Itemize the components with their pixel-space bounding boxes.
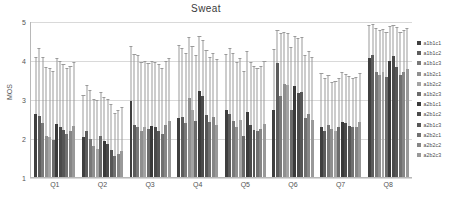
error-bar-cap — [89, 90, 92, 91]
error-bar — [195, 56, 196, 121]
error-bar-cap — [69, 66, 72, 67]
error-bar-cap — [187, 37, 190, 38]
chart-legend: a1b1c1a1b1c2a1b1c3a1b2c1a1b2c2a1b2c3a2b1… — [417, 38, 465, 160]
error-bar — [169, 59, 170, 121]
error-bar-cap — [286, 33, 289, 34]
error-bar — [73, 63, 74, 126]
legend-item-a2b1c2[interactable]: a2b1c2 — [417, 109, 465, 119]
error-bar-cap — [334, 81, 337, 82]
error-bar-cap — [225, 54, 228, 55]
error-bar-cap — [263, 61, 266, 62]
legend-swatch-icon — [417, 112, 421, 116]
error-bar-cap — [235, 62, 238, 63]
error-bar-cap — [161, 68, 164, 69]
legend-item-a2b2c2[interactable]: a2b2c2 — [417, 140, 465, 150]
x-axis-tick-label: Q3 — [126, 181, 174, 188]
error-bar-cap — [341, 72, 344, 73]
error-bar-cap — [330, 82, 333, 83]
error-bar-cap — [120, 107, 123, 108]
error-bar-cap — [307, 51, 310, 52]
legend-item-a1b2c3[interactable]: a1b2c3 — [417, 89, 465, 99]
legend-swatch-icon — [417, 153, 421, 157]
error-bar-cap — [228, 48, 231, 49]
bar[interactable] — [311, 120, 314, 177]
legend-item-a1b1c3[interactable]: a1b1c3 — [417, 58, 465, 68]
legend-item-a2b2c1[interactable]: a2b2c1 — [417, 130, 465, 140]
bar-slot — [358, 22, 361, 177]
error-bar — [264, 62, 265, 124]
error-bar — [226, 55, 227, 110]
legend-swatch-icon — [417, 72, 421, 76]
y-axis-tick-label: 4 — [22, 58, 26, 65]
error-bar — [301, 38, 302, 91]
error-bar — [162, 69, 163, 134]
error-bar — [46, 68, 47, 137]
error-bar-cap — [129, 46, 132, 47]
bar[interactable] — [72, 126, 75, 177]
legend-item-a1b1c1[interactable]: a1b1c1 — [417, 38, 465, 48]
error-bar-cap — [348, 76, 351, 77]
error-bar — [277, 31, 278, 63]
error-bar — [189, 38, 190, 97]
legend-swatch-icon — [417, 41, 421, 45]
error-bar — [372, 25, 373, 55]
bar-slot — [120, 22, 123, 177]
error-bar-cap — [320, 73, 323, 74]
bar[interactable] — [263, 124, 266, 177]
bar[interactable] — [215, 125, 218, 177]
error-bar — [42, 58, 43, 123]
error-bar-cap — [245, 51, 248, 52]
error-bar-cap — [279, 33, 282, 34]
bar[interactable] — [120, 151, 123, 177]
legend-item-a2b1c3[interactable]: a2b1c3 — [417, 120, 465, 130]
bar[interactable] — [168, 121, 171, 177]
error-bar-cap — [249, 62, 252, 63]
error-bar-cap — [180, 48, 183, 49]
error-bar-cap — [113, 113, 116, 114]
error-bar-cap — [48, 68, 51, 69]
error-bar-cap — [290, 47, 293, 48]
error-bar — [253, 67, 254, 130]
error-bar-cap — [303, 55, 306, 56]
legend-item-a1b2c2[interactable]: a1b2c2 — [417, 79, 465, 89]
error-bar — [118, 111, 119, 154]
error-bar — [209, 58, 210, 122]
error-bar-cap — [65, 68, 68, 69]
error-bar-cap — [385, 32, 388, 33]
error-bar-cap — [402, 30, 405, 31]
x-axis-tick-label: Q1 — [31, 181, 79, 188]
error-bar-cap — [177, 45, 180, 46]
error-bar — [273, 50, 274, 110]
error-bar — [155, 63, 156, 128]
error-bar — [312, 58, 313, 120]
error-bar-cap — [34, 57, 37, 58]
error-bar-cap — [41, 57, 44, 58]
legend-item-a1b2c1[interactable]: a1b2c1 — [417, 69, 465, 79]
error-bar — [151, 62, 152, 126]
error-bar — [331, 83, 332, 128]
bar[interactable] — [358, 122, 361, 177]
legend-item-label: a2b1c3 — [424, 122, 442, 128]
legend-item-a1b1c2[interactable]: a1b1c2 — [417, 48, 465, 58]
error-bar — [182, 49, 183, 117]
error-bar — [97, 101, 98, 149]
error-bar — [284, 33, 285, 84]
error-bar-cap — [276, 30, 279, 31]
bar-group-q6 — [269, 22, 317, 177]
bar[interactable] — [406, 69, 409, 177]
legend-item-a2b2c3[interactable]: a2b2c3 — [417, 150, 465, 160]
plot-area: 12345 — [30, 22, 412, 178]
bar-slot — [406, 22, 409, 177]
error-bar — [349, 77, 350, 126]
error-bar-cap — [55, 58, 58, 59]
bar-group-q3 — [126, 22, 174, 177]
error-bar-cap — [194, 55, 197, 56]
legend-item-a2b1c1[interactable]: a2b1c1 — [417, 99, 465, 109]
error-bar — [137, 56, 138, 127]
error-bar — [260, 67, 261, 129]
error-bar-cap — [58, 61, 61, 62]
error-bar — [407, 29, 408, 69]
error-bar — [400, 33, 401, 76]
error-bar-cap — [164, 61, 167, 62]
error-bar — [233, 54, 234, 121]
